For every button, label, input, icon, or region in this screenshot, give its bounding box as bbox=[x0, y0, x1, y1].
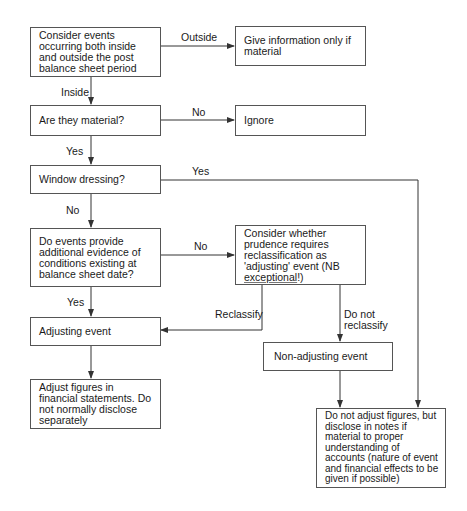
node-text: Adjust figures in financial statements. … bbox=[39, 382, 152, 426]
node-text: Give information only if material bbox=[244, 35, 357, 57]
node-text: Adjusting event bbox=[39, 326, 111, 337]
edge-label-no-window: No bbox=[66, 205, 79, 216]
edge-label-do-not-reclassify: Do not reclassify bbox=[344, 309, 388, 331]
edge-label-yes-evidence: Yes bbox=[67, 297, 84, 308]
node-text: Do not adjust figures, but disclose in n… bbox=[325, 411, 439, 485]
node-adjusting-event: Adjusting event bbox=[30, 317, 161, 346]
node-additional-evidence: Do events provide additional evidence of… bbox=[30, 228, 161, 287]
node-text: Non-adjusting event bbox=[274, 351, 367, 362]
node-consider-prudence: Consider whether prudence requires recla… bbox=[235, 225, 366, 285]
edge-label-reclassify: Reclassify bbox=[215, 309, 263, 320]
edge-label-line2: reclassify bbox=[344, 320, 388, 331]
node-text-end: !) bbox=[297, 271, 303, 283]
edge-label-no-material: No bbox=[192, 107, 205, 118]
node-text: Consider whether prudence requires recla… bbox=[244, 228, 357, 283]
node-text: Are they material? bbox=[39, 115, 124, 126]
node-consider-events: Consider events occurring both inside an… bbox=[30, 27, 161, 77]
node-non-adjusting-event: Non-adjusting event bbox=[263, 342, 393, 371]
edge-label-no-evidence: No bbox=[194, 241, 207, 252]
node-adjust-figures: Adjust figures in financial statements. … bbox=[30, 379, 161, 429]
node-text: Do events provide additional evidence of… bbox=[39, 236, 152, 280]
node-ignore: Ignore bbox=[235, 105, 366, 136]
node-text: Ignore bbox=[244, 115, 274, 126]
node-text: Consider events occurring both inside an… bbox=[39, 30, 152, 74]
node-text: Window dressing? bbox=[39, 174, 125, 185]
node-text-emphasis: exceptional bbox=[244, 271, 297, 283]
node-are-they-material: Are they material? bbox=[30, 105, 161, 136]
edge-label-inside: Inside bbox=[61, 87, 89, 98]
edge-label-yes-material: Yes bbox=[66, 146, 83, 157]
node-window-dressing: Window dressing? bbox=[30, 165, 161, 194]
edge-label-yes-window: Yes bbox=[192, 166, 209, 177]
edge-label-outside: Outside bbox=[181, 32, 217, 43]
node-do-not-adjust: Do not adjust figures, but disclose in n… bbox=[316, 408, 446, 488]
node-text-main: Consider whether prudence requires recla… bbox=[244, 227, 340, 272]
node-give-information: Give information only if material bbox=[235, 26, 366, 66]
